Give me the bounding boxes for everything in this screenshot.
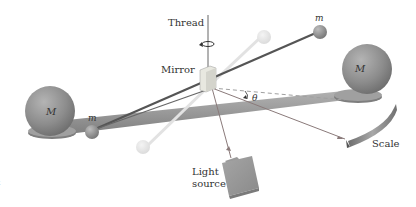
light-source-label-line1: Light	[192, 166, 219, 177]
light-source	[222, 156, 259, 199]
light-source-label-line2: source	[192, 178, 226, 189]
cavendish-diagram: Thread Mirror m m M M θ Light source Sca…	[0, 0, 416, 207]
mirror-label: Mirror	[161, 64, 195, 75]
scale-label: Scale	[372, 138, 400, 149]
small-mass-right	[313, 25, 327, 39]
angle-label: θ	[252, 93, 257, 104]
small-mass-right-label: m	[315, 13, 324, 24]
support-beam	[28, 88, 382, 139]
mirror	[200, 66, 216, 92]
large-mass-left-label: M	[46, 106, 56, 117]
thread-label: Thread	[168, 17, 204, 28]
small-mass-left	[85, 125, 99, 139]
small-mass-left-label: m	[88, 113, 97, 124]
light-ray	[212, 88, 231, 158]
large-mass-right	[342, 44, 392, 94]
large-mass-right-label: M	[355, 63, 365, 74]
ghost-positions	[136, 30, 271, 154]
